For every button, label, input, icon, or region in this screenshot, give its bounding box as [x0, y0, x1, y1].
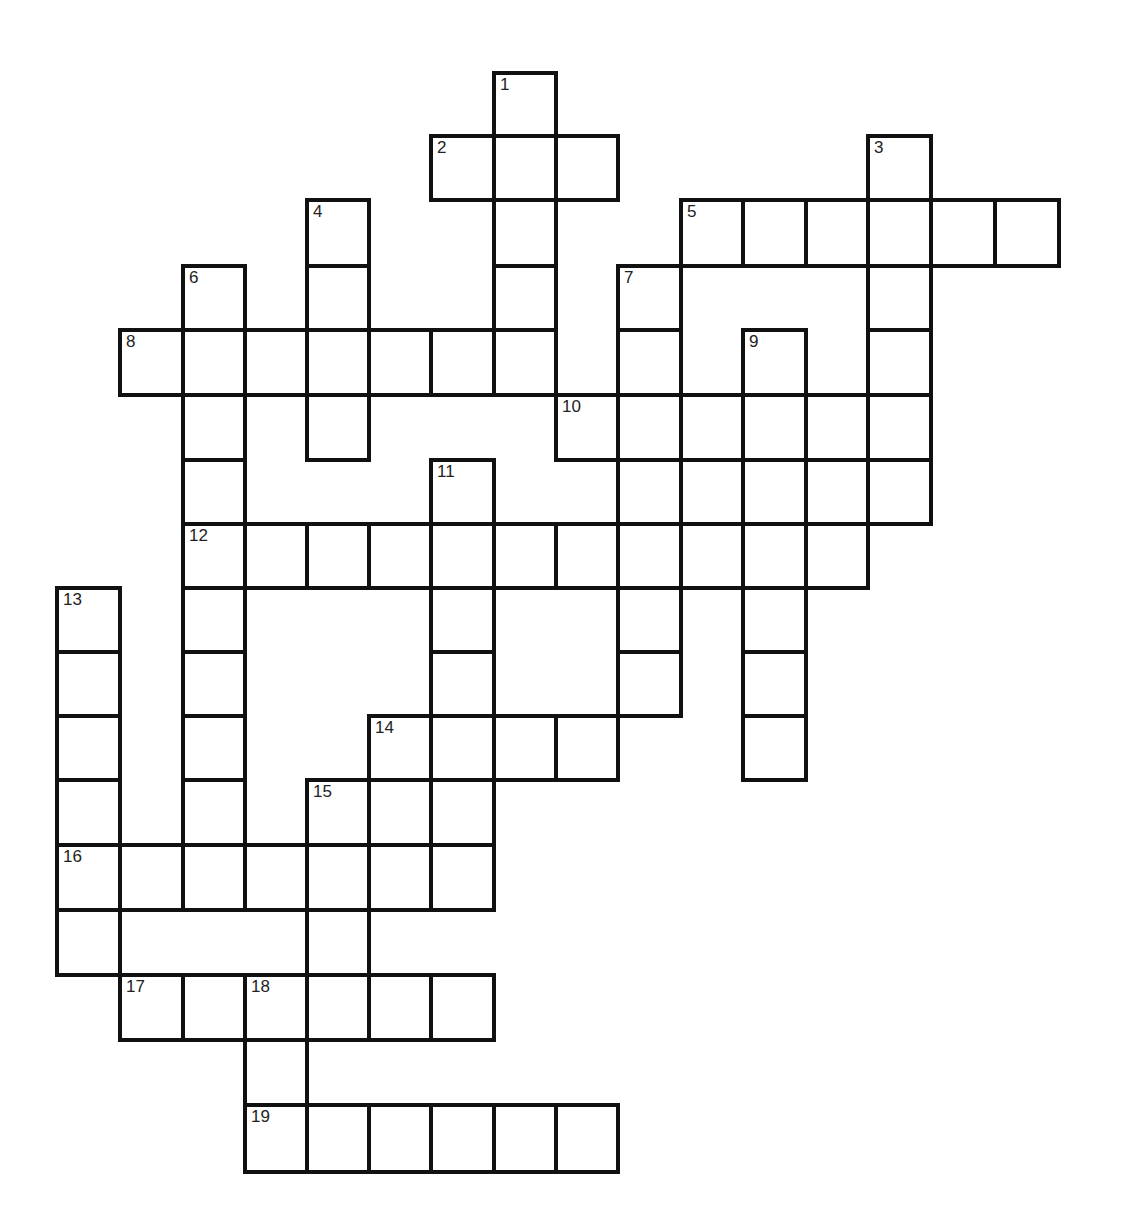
crossword-cell[interactable] [181, 650, 247, 718]
crossword-cell[interactable] [243, 328, 309, 397]
crossword-cell[interactable] [804, 522, 870, 590]
crossword-cell[interactable] [616, 458, 683, 526]
crossword-cell[interactable] [492, 328, 558, 397]
crossword-cell[interactable] [804, 198, 870, 268]
crossword-cell[interactable] [929, 198, 997, 268]
crossword-cell[interactable] [305, 1103, 371, 1174]
crossword-cell[interactable]: 10 [554, 393, 620, 462]
crossword-cell[interactable] [181, 586, 247, 654]
crossword-cell[interactable] [554, 714, 620, 782]
crossword-cell[interactable] [741, 198, 808, 268]
crossword-cell[interactable] [181, 328, 247, 397]
crossword-cell[interactable] [616, 586, 683, 654]
crossword-cell[interactable] [429, 1103, 496, 1174]
crossword-cell[interactable]: 12 [181, 522, 247, 590]
crossword-cell[interactable] [55, 650, 122, 718]
crossword-cell[interactable]: 2 [429, 134, 496, 202]
crossword-cell[interactable] [866, 458, 933, 526]
crossword-cell[interactable] [741, 650, 808, 718]
crossword-cell[interactable] [554, 522, 620, 590]
crossword-cell[interactable]: 11 [429, 458, 496, 526]
crossword-cell[interactable]: 8 [118, 328, 185, 397]
crossword-cell[interactable] [243, 522, 309, 590]
crossword-cell[interactable] [429, 328, 496, 397]
crossword-cell[interactable] [492, 714, 558, 782]
clue-number: 4 [313, 203, 322, 220]
crossword-cell[interactable] [741, 393, 808, 462]
crossword-cell[interactable] [804, 393, 870, 462]
crossword-cell[interactable] [243, 843, 309, 912]
crossword-cell[interactable] [305, 393, 371, 462]
crossword-cell[interactable] [866, 198, 933, 268]
crossword-cell[interactable] [866, 328, 933, 397]
crossword-cell[interactable] [367, 973, 433, 1042]
crossword-cell[interactable] [305, 908, 371, 977]
crossword-grid: 12345612789101113161415171819 [0, 0, 1125, 1232]
crossword-cell[interactable] [429, 714, 496, 782]
crossword-cell[interactable]: 3 [866, 134, 933, 202]
crossword-cell[interactable] [679, 522, 745, 590]
crossword-cell[interactable] [492, 522, 558, 590]
crossword-cell[interactable] [492, 1103, 558, 1174]
clue-number: 7 [624, 269, 633, 286]
crossword-cell[interactable] [492, 264, 558, 332]
crossword-cell[interactable] [367, 328, 433, 397]
crossword-cell[interactable] [429, 522, 496, 590]
crossword-cell[interactable] [181, 714, 247, 782]
crossword-cell[interactable] [866, 393, 933, 462]
crossword-cell[interactable] [429, 973, 496, 1042]
crossword-cell[interactable] [554, 1103, 620, 1174]
crossword-cell[interactable]: 1 [492, 71, 558, 138]
crossword-cell[interactable] [429, 778, 496, 847]
crossword-cell[interactable] [492, 198, 558, 268]
crossword-cell[interactable]: 7 [616, 264, 683, 332]
crossword-cell[interactable] [741, 522, 808, 590]
crossword-cell[interactable] [55, 714, 122, 782]
crossword-cell[interactable] [429, 586, 496, 654]
crossword-cell[interactable] [679, 393, 745, 462]
crossword-cell[interactable] [305, 843, 371, 912]
crossword-cell[interactable] [55, 908, 122, 977]
crossword-cell[interactable] [741, 586, 808, 654]
crossword-cell[interactable] [181, 458, 247, 526]
crossword-cell[interactable] [492, 134, 558, 202]
crossword-cell[interactable] [243, 1038, 309, 1107]
crossword-cell[interactable] [305, 522, 371, 590]
crossword-cell[interactable]: 4 [305, 198, 371, 268]
crossword-cell[interactable]: 14 [367, 714, 433, 782]
crossword-cell[interactable]: 19 [243, 1103, 309, 1174]
crossword-cell[interactable]: 16 [55, 843, 122, 912]
crossword-cell[interactable] [305, 973, 371, 1042]
crossword-cell[interactable] [993, 198, 1061, 268]
crossword-cell[interactable] [367, 843, 433, 912]
crossword-cell[interactable] [616, 393, 683, 462]
crossword-cell[interactable] [181, 778, 247, 847]
crossword-cell[interactable] [741, 714, 808, 782]
crossword-cell[interactable] [616, 650, 683, 718]
crossword-cell[interactable]: 18 [243, 973, 309, 1042]
crossword-cell[interactable]: 5 [679, 198, 745, 268]
crossword-cell[interactable]: 13 [55, 586, 122, 654]
crossword-cell[interactable] [429, 843, 496, 912]
crossword-cell[interactable] [367, 522, 433, 590]
crossword-cell[interactable]: 15 [305, 778, 371, 847]
crossword-cell[interactable] [741, 458, 808, 526]
crossword-cell[interactable]: 17 [118, 973, 185, 1042]
crossword-cell[interactable] [554, 134, 620, 202]
crossword-cell[interactable] [181, 843, 247, 912]
crossword-cell[interactable] [305, 264, 371, 332]
crossword-cell[interactable] [616, 522, 683, 590]
crossword-cell[interactable] [181, 973, 247, 1042]
clue-number: 10 [562, 398, 581, 415]
crossword-cell[interactable] [866, 264, 933, 332]
crossword-cell[interactable] [55, 778, 122, 847]
crossword-cell[interactable] [367, 1103, 433, 1174]
crossword-cell[interactable]: 6 [181, 264, 247, 332]
crossword-cell[interactable] [616, 328, 683, 397]
crossword-cell[interactable]: 9 [741, 328, 808, 397]
crossword-cell[interactable] [429, 650, 496, 718]
crossword-cell[interactable] [118, 843, 185, 912]
clue-number: 5 [687, 203, 696, 220]
crossword-cell[interactable] [181, 393, 247, 462]
crossword-cell[interactable] [305, 328, 371, 397]
